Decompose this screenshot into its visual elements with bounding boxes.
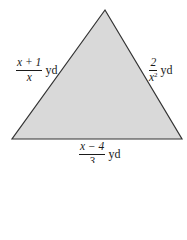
right-unit: yd [161, 64, 173, 76]
bottom-numerator: x − 4 [79, 141, 105, 155]
right-denominator-exponent: 2 [154, 71, 158, 79]
left-side-label: x + 1 x yd [16, 57, 57, 83]
right-side-fraction: 2 x2 [149, 57, 158, 83]
left-numerator: x + 1 [16, 57, 42, 71]
bottom-denominator: 3 [89, 155, 95, 164]
left-side-fraction: x + 1 x [16, 57, 42, 83]
left-denominator: x [27, 71, 32, 84]
right-side-label: 2 x2 yd [149, 57, 173, 83]
right-denominator: x2 [149, 71, 158, 84]
bottom-side-label: x − 4 3 yd [79, 141, 120, 163]
right-numerator: 2 [149, 57, 157, 71]
bottom-unit: yd [108, 148, 120, 160]
left-unit: yd [45, 64, 57, 76]
bottom-side-fraction: x − 4 3 [79, 141, 105, 163]
